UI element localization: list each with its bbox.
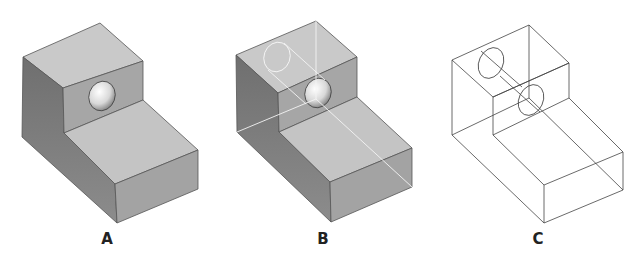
figure-a-shaded-block bbox=[22, 23, 198, 223]
figure-label-c: C bbox=[532, 230, 543, 248]
back-hole-icon bbox=[473, 43, 508, 82]
figure-label-a: A bbox=[101, 230, 113, 248]
figure-c-wireframe-block bbox=[452, 25, 623, 223]
isometric-views-diagram bbox=[0, 0, 640, 253]
figure-b-translucent-block bbox=[236, 21, 412, 222]
figure-label-b: B bbox=[317, 230, 328, 248]
